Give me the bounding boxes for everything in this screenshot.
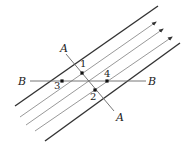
point-4 [105,79,108,82]
point-3 [60,79,63,82]
label-b-left: B [17,75,26,88]
points [60,71,108,91]
field-line-2 [26,29,163,125]
point-label-3: 3 [54,80,60,91]
boundary-lines [15,6,180,141]
boundary-line-1 [15,6,158,106]
label-b-right: B [147,75,156,88]
point-label-1: 1 [80,58,86,69]
label-a-bottom: A [115,111,124,124]
boundary-line-2 [45,43,180,141]
label-a-top: A [59,42,68,55]
point-label-4: 4 [104,68,110,79]
point-label-2: 2 [90,91,96,102]
point-1 [80,71,83,74]
field-line-1 [20,22,156,117]
field-lines-diagram: A A B B 1 2 3 4 [0,0,191,155]
